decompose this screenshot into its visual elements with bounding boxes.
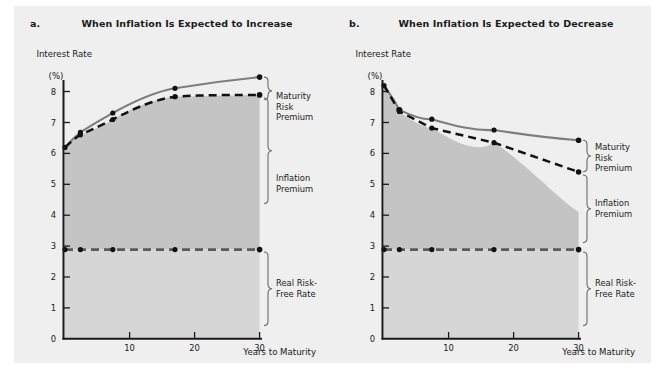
- panel-b-point-nominal: [576, 137, 582, 143]
- svg-text:8: 8: [51, 87, 56, 97]
- svg-text:10: 10: [443, 343, 454, 353]
- panel-a-point-real: [172, 247, 177, 252]
- svg-text:6: 6: [370, 148, 375, 158]
- panel-a-maturity-risk-premium-label: Maturity Risk Premium: [276, 91, 313, 123]
- panel-a-inflation-premium-area: [65, 95, 260, 250]
- panel-b-point-nominal: [491, 127, 496, 132]
- svg-text:7: 7: [370, 118, 375, 128]
- panel-b-point-real: [491, 247, 496, 252]
- svg-text:20: 20: [189, 343, 200, 353]
- panel-b-point-nominal: [429, 117, 434, 122]
- panel-b-x-axis-label: Years to Maturity: [562, 347, 635, 357]
- panel-b-inflation-premium-area: [384, 86, 579, 250]
- panel-a-point-inflation: [110, 117, 115, 122]
- svg-text:8: 8: [370, 87, 375, 97]
- svg-text:6: 6: [51, 148, 56, 158]
- svg-text:1: 1: [51, 303, 56, 313]
- panel-b-real-risk-free-area: [384, 250, 579, 339]
- panel-b-maturity-risk-premium-label: Maturity Risk Premium: [595, 142, 632, 174]
- panel-a-point-inflation: [257, 92, 263, 98]
- panel-a-point-inflation: [172, 94, 177, 99]
- panel-a-brackets: [264, 77, 272, 325]
- panel-a-point-nominal: [257, 74, 263, 80]
- panel-a-point-inflation: [78, 132, 83, 137]
- figure-root: a. When Inflation Is Expected to Increas…: [0, 0, 665, 376]
- svg-text:4: 4: [51, 210, 56, 220]
- svg-text:0: 0: [51, 334, 56, 344]
- panel-a-inflation-premium-label: Inflation Premium: [276, 173, 313, 194]
- svg-text:10: 10: [124, 343, 135, 353]
- svg-text:2: 2: [51, 272, 56, 282]
- panel-a-point-real: [78, 247, 83, 252]
- svg-text:20: 20: [508, 343, 519, 353]
- panel-b-point-real: [576, 247, 582, 253]
- panel-b-point-inflation: [397, 109, 402, 114]
- panel-b-point-inflation: [491, 140, 496, 145]
- svg-text:1: 1: [370, 303, 375, 313]
- panel-b-real-risk-free-rate-label: Real Risk- Free Rate: [595, 278, 636, 299]
- svg-text:3: 3: [370, 241, 375, 251]
- panel-a: a. When Inflation Is Expected to Increas…: [14, 6, 332, 363]
- panel-a-y-tick-labels: 8 7 6 5 4 3 2 1 0: [51, 87, 56, 344]
- svg-text:5: 5: [51, 179, 56, 189]
- svg-text:2: 2: [370, 272, 375, 282]
- panel-b-y-tick-labels: 8 7 6 5 4 3 2 1 0: [370, 87, 375, 344]
- svg-text:4: 4: [370, 210, 375, 220]
- svg-text:7: 7: [51, 118, 56, 128]
- panel-a-point-nominal: [110, 110, 115, 115]
- panel-a-real-risk-free-rate-label: Real Risk- Free Rate: [276, 278, 317, 299]
- panel-b-inflation-premium-label: Inflation Premium: [595, 198, 632, 219]
- panel-b-plot: 8 7 6 5 4 3 2 1 0 10 20 30: [333, 6, 651, 363]
- svg-text:3: 3: [51, 241, 56, 251]
- panel-b-point-inflation: [429, 126, 434, 131]
- panel-b-point-real: [397, 247, 402, 252]
- panel-b: b. When Inflation Is Expected to Decreas…: [333, 6, 651, 363]
- panel-a-x-axis-label: Years to Maturity: [243, 347, 316, 357]
- panel-a-point-nominal: [172, 86, 177, 91]
- panel-b-point-inflation: [576, 169, 582, 175]
- panel-b-point-real: [429, 247, 434, 252]
- panel-a-real-risk-free-area: [65, 250, 260, 339]
- panel-a-point-real: [110, 247, 115, 252]
- panel-a-point-real: [257, 247, 263, 253]
- svg-text:0: 0: [370, 334, 375, 344]
- svg-text:5: 5: [370, 179, 375, 189]
- panel-b-brackets: [583, 140, 591, 325]
